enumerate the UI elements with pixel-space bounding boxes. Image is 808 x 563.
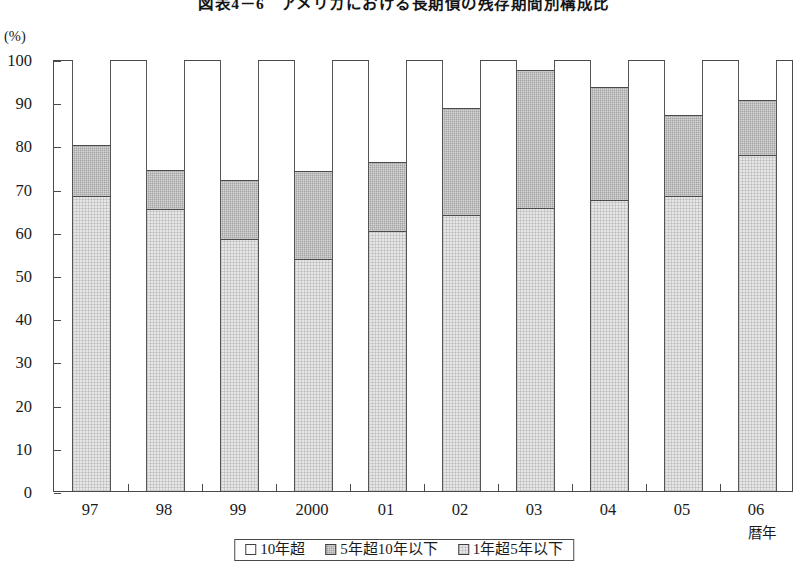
x-axis-tick-label-05: 05 — [674, 500, 691, 520]
page-title: 図表4－6 アメリカにおける長期債の残存期間別構成比 — [0, 0, 808, 13]
x-axis-tick-label-02: 02 — [452, 500, 469, 520]
y-axis-tick-mark — [54, 61, 61, 62]
bar-segment-1to5y — [147, 210, 184, 491]
bar-segment-5to10y — [73, 145, 110, 197]
y-axis-tick-label: 80 — [0, 139, 32, 156]
y-axis-tick-label: 10 — [0, 442, 32, 459]
bar-segment-1to5y — [665, 197, 702, 491]
bar-group-02[interactable] — [442, 61, 481, 491]
bar-segment-1to5y — [221, 240, 258, 491]
legend-swatch-icon — [245, 544, 256, 555]
bar-segment-5to10y — [369, 162, 406, 232]
y-axis-tick-label: 50 — [0, 269, 32, 286]
y-axis-tick-label: 40 — [0, 312, 32, 329]
bar-group-97[interactable] — [72, 61, 111, 491]
bar-group-05[interactable] — [664, 61, 703, 491]
y-axis-tick-label: 20 — [0, 398, 32, 415]
bar-stack — [590, 61, 629, 491]
legend-label: 5年超10年以下 — [340, 542, 438, 557]
bar-segment-1to5y — [369, 232, 406, 491]
bar-segment-5to10y — [147, 170, 184, 210]
y-axis-tick-label: 0 — [0, 485, 32, 502]
bar-stack — [516, 61, 555, 491]
bar-segment-1to5y — [443, 216, 480, 491]
x-axis-tick-mark — [350, 484, 351, 492]
bar-segment-over10y — [591, 59, 628, 87]
y-axis-tick-mark — [54, 104, 61, 105]
y-axis-tick-mark — [54, 147, 61, 148]
bar-segment-1to5y — [739, 156, 776, 491]
bar-segment-1to5y — [591, 201, 628, 491]
legend-label: 1年超5年以下 — [473, 542, 563, 557]
y-axis-tick-mark — [54, 363, 61, 364]
y-axis-tick-mark — [54, 277, 61, 278]
x-axis-tick-mark — [572, 484, 573, 492]
bar-stack — [738, 61, 777, 491]
bar-stack — [294, 61, 333, 491]
bar-group-2000[interactable] — [294, 61, 333, 491]
legend-swatch-icon — [458, 544, 469, 555]
y-axis-tick-label: 70 — [0, 182, 32, 199]
bar-stack — [368, 61, 407, 491]
chart-plot-area: 0102030405060708090100 — [53, 60, 793, 492]
bar-segment-over10y — [147, 59, 184, 170]
y-axis-tick-label: 100 — [0, 53, 32, 70]
bar-stack — [72, 61, 111, 491]
y-axis-unit-label: (%) — [4, 28, 26, 45]
bar-segment-5to10y — [517, 70, 554, 209]
bar-segment-1to5y — [73, 197, 110, 491]
bar-segment-over10y — [443, 59, 480, 108]
legend-item[interactable]: 10年超 — [245, 542, 305, 557]
bar-stack — [146, 61, 185, 491]
y-axis-tick-mark — [54, 234, 61, 235]
x-axis-tick-mark — [276, 484, 277, 492]
bar-group-99[interactable] — [220, 61, 259, 491]
legend-swatch-icon — [325, 544, 336, 555]
bar-group-98[interactable] — [146, 61, 185, 491]
y-axis-tick-label: 90 — [0, 96, 32, 113]
y-axis-tick-mark — [54, 493, 61, 494]
x-axis-tick-mark — [498, 484, 499, 492]
legend-item[interactable]: 5年超10年以下 — [325, 542, 438, 557]
x-axis-tick-mark — [646, 484, 647, 492]
bar-segment-over10y — [739, 59, 776, 100]
legend-label: 10年超 — [260, 542, 305, 557]
bar-segment-over10y — [221, 59, 258, 180]
x-axis-tick-label-99: 99 — [230, 500, 247, 520]
x-axis-tick-mark — [128, 484, 129, 492]
y-axis-tick-label: 30 — [0, 355, 32, 372]
bar-group-01[interactable] — [368, 61, 407, 491]
bar-stack — [220, 61, 259, 491]
y-axis-tick-mark — [54, 191, 61, 192]
y-axis-tick-mark — [54, 407, 61, 408]
bar-group-03[interactable] — [516, 61, 555, 491]
bar-segment-5to10y — [665, 115, 702, 197]
x-axis-tick-label-2000: 2000 — [296, 500, 329, 520]
bar-segment-5to10y — [739, 100, 776, 156]
bar-group-06[interactable] — [738, 61, 777, 491]
x-axis-tick-mark — [720, 484, 721, 492]
bar-stack — [442, 61, 481, 491]
x-axis-tick-mark — [202, 484, 203, 492]
bar-segment-over10y — [517, 59, 554, 70]
x-axis-tick-label-98: 98 — [156, 500, 173, 520]
y-axis-tick-label: 60 — [0, 226, 32, 243]
chart-legend: 10年超5年超10年以下1年超5年以下 — [234, 539, 574, 561]
bar-stack — [664, 61, 703, 491]
x-axis-tick-mark — [424, 484, 425, 492]
x-axis-tick-label-03: 03 — [526, 500, 543, 520]
x-axis-unit-label: 暦年 — [748, 521, 776, 542]
bar-segment-over10y — [665, 59, 702, 115]
bar-segment-5to10y — [443, 108, 480, 216]
bar-segment-over10y — [73, 59, 110, 145]
bar-segment-over10y — [369, 59, 406, 162]
x-axis-tick-label-97: 97 — [82, 500, 99, 520]
bar-segment-1to5y — [295, 260, 332, 491]
bar-group-04[interactable] — [590, 61, 629, 491]
bar-segment-5to10y — [591, 87, 628, 201]
legend-item[interactable]: 1年超5年以下 — [458, 542, 563, 557]
x-axis-tick-label-06: 06 — [748, 500, 765, 520]
bar-segment-1to5y — [517, 209, 554, 491]
bar-segment-over10y — [295, 59, 332, 171]
x-axis-tick-label-04: 04 — [600, 500, 617, 520]
